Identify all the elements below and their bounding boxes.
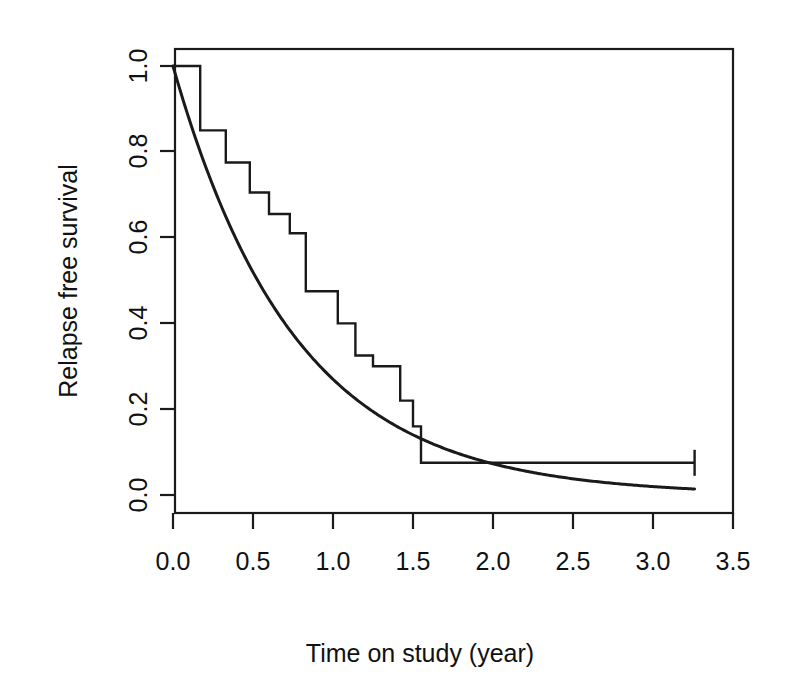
y-tick-label: 0.0 — [124, 478, 152, 513]
kaplan-meier-step-curve — [173, 66, 695, 463]
y-tick-label: 0.8 — [124, 134, 152, 169]
y-tick-label: 0.6 — [124, 220, 152, 255]
survival-chart-figure: 1.0 0.8 0.6 0.4 0.2 0.0 Relapse free sur… — [0, 0, 790, 698]
x-tick-label: 1.5 — [396, 547, 431, 575]
x-tick-label: 0.5 — [236, 547, 271, 575]
exponential-fit-curve — [173, 66, 695, 489]
x-axis-tick-labels: 0.0 0.5 1.0 1.5 2.0 2.5 3.0 3.5 — [156, 547, 751, 575]
x-tick-label: 2.0 — [476, 547, 511, 575]
x-tick-label: 3.5 — [716, 547, 751, 575]
y-tick-label: 0.4 — [124, 306, 152, 341]
x-axis-ticks — [173, 513, 733, 529]
y-axis-tick-labels: 1.0 0.8 0.6 0.4 0.2 0.0 — [124, 49, 152, 513]
x-axis-title: Time on study (year) — [306, 639, 534, 667]
y-axis-ticks — [160, 66, 175, 495]
chart-svg: 1.0 0.8 0.6 0.4 0.2 0.0 Relapse free sur… — [0, 0, 790, 698]
data-layer — [173, 66, 695, 489]
x-tick-label: 2.5 — [556, 547, 591, 575]
y-tick-label: 1.0 — [124, 49, 152, 84]
y-axis-title: Relapse free survival — [54, 164, 82, 397]
x-tick-label: 3.0 — [636, 547, 671, 575]
y-tick-label: 0.2 — [124, 392, 152, 427]
x-tick-label: 0.0 — [156, 547, 191, 575]
x-tick-label: 1.0 — [316, 547, 351, 575]
